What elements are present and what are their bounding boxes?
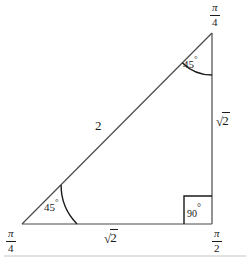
degree-symbol-icon-bottom-left: ° — [55, 197, 59, 207]
radicand: 2 — [110, 229, 118, 245]
fraction-denominator: 4 — [6, 243, 16, 255]
fraction-numerator: π — [6, 228, 16, 240]
vertex-label-top-right: π 4 — [210, 2, 220, 29]
angle-label-right-angle: 90° — [187, 203, 201, 220]
fraction-numerator: π — [210, 2, 220, 14]
angle-label-top-vertex: 45° — [183, 55, 198, 71]
vertex-label-bottom-left: π 4 — [6, 228, 16, 255]
fraction-pi-over-4-top: π 4 — [210, 2, 220, 28]
fraction-denominator: 4 — [210, 17, 220, 29]
fraction-pi-over-4-bottom-left: π 4 — [6, 228, 16, 254]
fraction-numerator: π — [212, 228, 222, 240]
vertex-label-bottom-right: π 2 — [212, 228, 222, 255]
side-label-vertical-leg: √2 — [216, 113, 230, 129]
side-label-horizontal-leg: √2 — [104, 230, 118, 246]
radicand: 2 — [222, 112, 230, 128]
angle-arc-bottom-left — [61, 185, 77, 224]
triangle-drawing — [0, 0, 250, 264]
angle-value-right: 90 — [187, 208, 197, 219]
angle-value-bottom-left: 45 — [44, 201, 55, 213]
angle-value-top: 45 — [183, 58, 194, 70]
sqrt-expression-horizontal: √2 — [104, 232, 118, 245]
angle-label-bottom-left-vertex: 45° — [44, 198, 59, 214]
sqrt-expression-vertical: √2 — [216, 115, 230, 128]
degree-symbol-icon-top: ° — [194, 54, 198, 64]
fraction-pi-over-2-bottom-right: π 2 — [212, 228, 222, 254]
side-label-hypotenuse: 2 — [95, 117, 102, 133]
degree-symbol-icon-right: ° — [197, 202, 201, 213]
geometry-figure: π 4 π 4 π 2 2 √2 √2 45° 45° — [0, 0, 250, 264]
fraction-denominator: 2 — [212, 243, 222, 255]
hypotenuse-length-value: 2 — [95, 118, 102, 133]
